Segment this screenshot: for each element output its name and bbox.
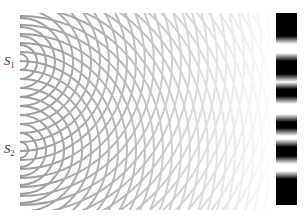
- source-label-s1: S1: [4, 54, 15, 70]
- wavefront-fade: [20, 13, 270, 210]
- double-slit-diagram: [0, 0, 305, 223]
- source-s2-subscript: 2: [11, 149, 15, 158]
- figure-caption: [0, 214, 305, 223]
- interference-fringe-screen: [276, 13, 297, 205]
- source-label-s2: S2: [4, 142, 15, 158]
- source-s1-subscript: 1: [11, 61, 15, 70]
